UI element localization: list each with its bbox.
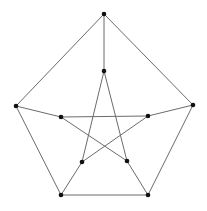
graph-node-i1 (146, 114, 151, 119)
graph-edge-o4-i4 (16, 106, 61, 117)
graph-edge-i4-i1 (61, 116, 148, 117)
graph-node-i3 (80, 160, 85, 165)
graph-node-o2 (146, 193, 151, 198)
graph-node-o0 (102, 12, 107, 17)
graph-edge-o1-o2 (148, 105, 193, 195)
graph-edges (16, 14, 193, 195)
graph-edge-o1-i1 (148, 105, 193, 116)
petersen-graph-diagram (0, 0, 207, 211)
graph-edge-o3-i3 (61, 162, 82, 195)
graph-node-o4 (14, 104, 19, 109)
graph-edge-o3-o4 (16, 106, 61, 195)
graph-node-i2 (125, 159, 130, 164)
graph-node-i0 (102, 69, 107, 74)
graph-edge-o4-o0 (16, 14, 104, 106)
graph-edge-o2-i2 (127, 161, 148, 195)
graph-node-i4 (59, 115, 64, 120)
graph-node-o3 (59, 193, 64, 198)
graph-node-o1 (191, 103, 196, 108)
graph-edge-o0-o1 (104, 14, 193, 105)
